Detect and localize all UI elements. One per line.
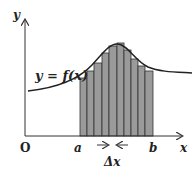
interval-end-label: b	[149, 141, 157, 155]
riemann-bars	[80, 43, 153, 136]
x-axis-label: x	[179, 141, 188, 155]
origin-label: O	[20, 141, 30, 155]
curve-label: y = f(x)	[34, 68, 88, 83]
delta-x-label: Δx	[103, 155, 121, 169]
interval-start-label: a	[74, 141, 82, 155]
y-axis-label: y	[12, 8, 21, 22]
riemann-sum-diagram: y x O y = f(x) a b Δx	[0, 0, 196, 174]
